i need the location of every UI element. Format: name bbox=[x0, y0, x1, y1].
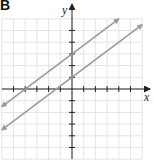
y-axis-label: y bbox=[61, 3, 68, 17]
coordinate-plane: x y bbox=[0, 0, 154, 167]
x-axis-label: x bbox=[143, 90, 150, 104]
